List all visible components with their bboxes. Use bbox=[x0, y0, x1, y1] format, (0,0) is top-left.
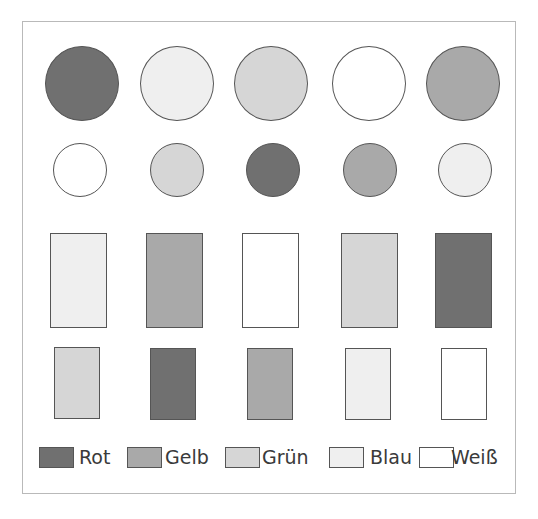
small-circle-2 bbox=[150, 143, 204, 197]
large-circle-4 bbox=[332, 46, 406, 121]
legend-label-blau: Blau bbox=[370, 444, 412, 470]
small-rect-1 bbox=[54, 347, 100, 419]
small-rect-2 bbox=[150, 348, 196, 420]
legend-swatch-blau bbox=[329, 447, 364, 468]
legend-label-weiss: Weiß bbox=[451, 444, 498, 470]
small-circle-3 bbox=[246, 143, 300, 197]
legend-label-rot: Rot bbox=[79, 444, 110, 470]
large-circle-5 bbox=[426, 46, 500, 121]
large-rect-4 bbox=[341, 233, 398, 328]
small-rect-3 bbox=[247, 348, 293, 420]
small-circle-5 bbox=[438, 143, 492, 197]
large-circle-2 bbox=[140, 46, 214, 121]
large-circle-3 bbox=[234, 46, 308, 121]
large-rect-2 bbox=[146, 233, 203, 328]
large-rect-3 bbox=[242, 233, 299, 328]
small-rect-4 bbox=[345, 348, 391, 420]
legend-swatch-gruen bbox=[225, 447, 260, 468]
small-circle-4 bbox=[343, 143, 397, 197]
legend-swatch-gelb bbox=[127, 447, 162, 468]
legend-label-gelb: Gelb bbox=[165, 444, 209, 470]
large-rect-5 bbox=[435, 233, 492, 328]
legend-swatch-rot bbox=[39, 447, 74, 468]
small-circle-1 bbox=[53, 143, 107, 197]
large-circle-1 bbox=[45, 46, 119, 121]
small-rect-5 bbox=[441, 348, 487, 420]
legend-swatch-weiss bbox=[419, 447, 454, 468]
legend-label-gruen: Grün bbox=[262, 444, 309, 470]
large-rect-1 bbox=[50, 233, 107, 328]
